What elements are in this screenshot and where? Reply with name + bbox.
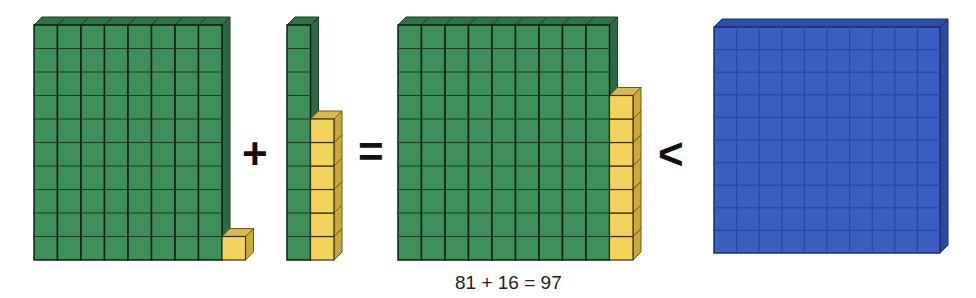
less-than-sign: < [658, 132, 684, 176]
one-cube [311, 166, 335, 190]
one-cube [311, 190, 335, 214]
one-cube [311, 119, 335, 143]
one-cube [311, 237, 335, 261]
one-cube [610, 237, 634, 261]
plus-sign: + [242, 132, 268, 176]
base-ten-diagram [0, 0, 976, 298]
one-cube [222, 237, 246, 261]
one-cube [311, 143, 335, 167]
one-cube [610, 96, 634, 120]
one-cube [610, 166, 634, 190]
one-cube [610, 143, 634, 167]
equation-caption: 81 + 16 = 97 [455, 272, 562, 294]
one-cube [311, 213, 335, 237]
equals-sign: = [358, 130, 384, 174]
one-cube [610, 190, 634, 214]
one-cube [610, 119, 634, 143]
one-cube [610, 213, 634, 237]
